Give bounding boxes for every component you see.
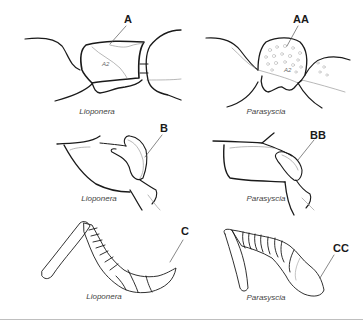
comparison-figure: A AA B BB C CC A2 A2 Lioponera Parasysci… <box>0 0 363 325</box>
panel-label-a: A <box>124 14 132 25</box>
caption-a-genus: Lioponera <box>79 108 115 116</box>
panel-label-c: C <box>181 226 189 237</box>
caption-b-genus: Lioponera <box>81 195 117 203</box>
segment-label-a2-lioponera: A2 <box>102 61 109 67</box>
caption-bb-genus: Parasyscia <box>246 195 285 203</box>
segment-label-a2-parasyscia: A2 <box>284 67 291 73</box>
bottom-divider <box>0 319 363 320</box>
caption-aa-genus: Parasyscia <box>246 108 285 116</box>
caption-cc-genus: Parasyscia <box>246 294 285 302</box>
panel-label-aa: AA <box>293 14 309 25</box>
drawing-cc-parasyscia <box>224 229 324 296</box>
caption-c-genus: Lioponera <box>86 293 122 301</box>
panel-label-b: B <box>160 123 168 134</box>
panel-label-cc: CC <box>333 243 349 254</box>
drawing-aa-parasyscia <box>206 38 350 108</box>
drawing-c-lioponera <box>42 222 176 293</box>
anatomy-drawings <box>0 0 363 325</box>
panel-label-bb: BB <box>310 130 326 141</box>
